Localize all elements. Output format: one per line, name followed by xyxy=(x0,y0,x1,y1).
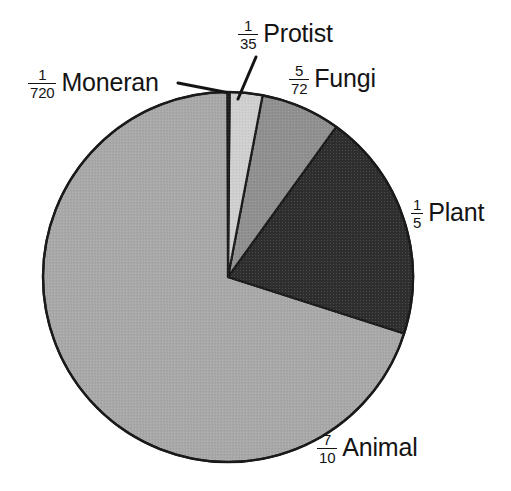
fraction-plant: 1 5 xyxy=(411,197,423,231)
fraction-numerator: 5 xyxy=(293,63,305,79)
fraction-numerator: 1 xyxy=(411,197,423,213)
fraction-denominator: 720 xyxy=(28,83,56,100)
pie-label-fungi: 5 72 Fungi xyxy=(289,62,376,96)
fraction-denominator: 5 xyxy=(411,213,423,230)
pie-grain-overlay xyxy=(44,93,412,461)
fraction-denominator: 10 xyxy=(317,448,337,465)
fraction-protist: 1 35 xyxy=(238,18,258,52)
fraction-numerator: 7 xyxy=(321,432,333,448)
pie-label-moneran: 1 720 Moneran xyxy=(28,66,159,100)
pie-label-moneran-text: Moneran xyxy=(61,70,158,95)
pie-label-protist: 1 35 Protist xyxy=(238,17,333,51)
pie-label-plant: 1 5 Plant xyxy=(411,196,484,230)
pie-label-protist-text: Protist xyxy=(263,21,332,46)
fraction-denominator: 35 xyxy=(238,34,258,51)
fraction-moneran: 1 720 xyxy=(28,67,56,101)
fraction-numerator: 1 xyxy=(242,18,254,34)
fraction-fungi: 5 72 xyxy=(289,63,309,97)
fraction-numerator: 1 xyxy=(36,67,48,83)
fraction-animal: 7 10 xyxy=(317,432,337,466)
pie-label-animal-text: Animal xyxy=(342,435,417,460)
pie-label-plant-text: Plant xyxy=(428,200,484,225)
pie-label-fungi-text: Fungi xyxy=(314,66,376,91)
pie-label-animal: 7 10 Animal xyxy=(317,431,418,465)
leader-line-moneran xyxy=(178,83,227,93)
fraction-denominator: 72 xyxy=(289,79,309,96)
pie-chart-figure: 1 720 Moneran 1 35 Protist 5 72 Fungi 1 … xyxy=(0,0,511,491)
